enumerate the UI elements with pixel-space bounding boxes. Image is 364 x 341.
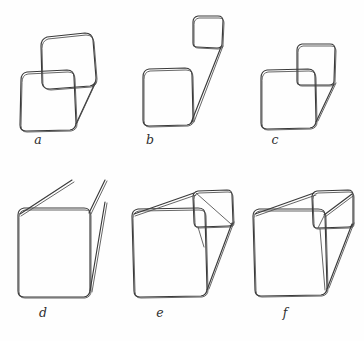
cube-sequence-drawing [0, 0, 364, 341]
panel-a-drawing [20, 33, 97, 132]
panel-d-drawing [18, 180, 107, 298]
panel-label-e: e [148, 307, 172, 320]
panel-label-f: f [273, 307, 297, 320]
panel-label-c: c [263, 134, 287, 147]
panel-b-drawing [143, 16, 224, 127]
panel-label-d: d [31, 307, 55, 320]
panel-f-drawing [253, 190, 354, 297]
panel-e-drawing [132, 190, 234, 298]
panel-label-a: a [26, 134, 50, 147]
panel-c-drawing [261, 44, 336, 130]
panel-label-b: b [138, 134, 162, 147]
figure-root: a b c d e f [0, 0, 364, 341]
